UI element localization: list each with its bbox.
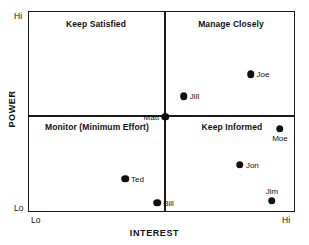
data-point-label-ted: Ted [131,174,144,183]
data-point-jim [268,197,276,205]
data-point-label-jill: Jill [190,92,199,101]
data-point-jill [180,93,188,101]
data-point-joe [247,71,255,79]
y-axis-high-tick: Hi [14,11,22,21]
quadrant-label-monitor: Monitor (Minimum Effort) [45,122,149,132]
data-point-label-matt: Matt [144,112,160,121]
data-point-label-moe: Moe [272,134,288,143]
data-point-label-joe: Joe [257,70,270,79]
plot-area: Keep Satisfied Manage Closely Monitor (M… [28,11,295,212]
x-axis-title: INTEREST [0,228,309,238]
data-point-ted [121,175,129,183]
quadrant-label-keep-informed: Keep Informed [202,122,263,132]
y-axis-title: POWER [7,74,17,144]
data-point-label-bill: Bill [163,198,174,207]
data-point-matt [161,113,169,121]
x-axis-high-tick: Hi [282,215,290,225]
data-point-bill [153,199,161,207]
x-axis-low-tick: Lo [31,215,40,225]
data-point-moe [276,125,284,133]
y-axis-low-tick: Lo [14,203,23,213]
vertical-divider [164,12,166,211]
data-point-jon [236,161,244,169]
power-interest-grid: Hi Lo Lo Hi INTEREST POWER Keep Satisfie… [0,0,309,245]
quadrant-label-keep-satisfied: Keep Satisfied [66,19,126,29]
quadrant-label-manage-closely: Manage Closely [198,19,264,29]
data-point-label-jim: Jim [266,187,278,196]
data-point-label-jon: Jon [246,160,259,169]
